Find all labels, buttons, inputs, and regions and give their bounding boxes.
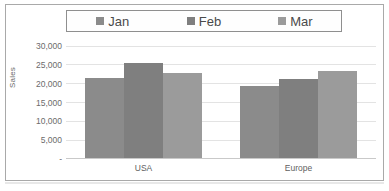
y-axis-tick-label: 25,000 (36, 60, 62, 69)
bar-usa-mar[interactable] (163, 73, 202, 159)
square-swatch-icon (278, 17, 286, 25)
bar-group-europe (221, 46, 376, 158)
legend-item-jan[interactable]: Jan (67, 15, 158, 28)
square-swatch-icon (187, 17, 195, 25)
x-axis-category-label: USA (66, 163, 221, 173)
bar-europe-feb[interactable] (279, 79, 318, 158)
plot-area-wrapper (66, 46, 376, 159)
chart-legend: JanFebMar (66, 10, 342, 32)
y-axis-tick-label: 15,000 (36, 98, 62, 107)
bar-usa-jan[interactable] (85, 78, 124, 158)
legend-item-feb[interactable]: Feb (158, 15, 249, 28)
y-axis-tick-label: 5,000 (41, 136, 62, 145)
y-axis-tick-label: - (59, 155, 62, 164)
y-axis-tick-labels: 30,00025,00020,00015,00010,0005,000- (18, 46, 62, 159)
legend-item-label: Feb (199, 15, 221, 28)
legend-item-label: Mar (290, 15, 312, 28)
y-axis-tick-label: 20,000 (36, 79, 62, 88)
x-axis-category-label: Europe (221, 163, 376, 173)
bar-europe-mar[interactable] (318, 71, 357, 158)
x-axis-category-labels: USAEurope (66, 163, 376, 173)
bar-group-usa (66, 46, 221, 158)
bar-europe-jan[interactable] (240, 86, 279, 158)
y-axis-tick-label: 10,000 (36, 117, 62, 126)
bar-usa-feb[interactable] (124, 63, 163, 158)
x-axis-line (66, 158, 376, 159)
square-swatch-icon (96, 17, 104, 25)
bar-groups (66, 46, 376, 158)
y-axis-title: Sales (8, 67, 17, 88)
chart-figure: JanFebMar Sales 30,00025,00020,00015,000… (0, 0, 389, 191)
y-axis-tick-label: 30,000 (36, 42, 62, 51)
legend-item-mar[interactable]: Mar (250, 15, 341, 28)
chart-border-shadow (5, 182, 384, 184)
legend-item-label: Jan (108, 15, 129, 28)
